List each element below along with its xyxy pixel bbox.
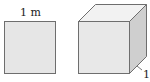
square-dimension-label: 1 m xyxy=(20,7,41,18)
cube-dimension-leader xyxy=(137,66,142,70)
cube-dimension-label: 1 xyxy=(143,69,150,80)
cube-front-face xyxy=(79,22,130,74)
square-shape xyxy=(5,22,56,74)
